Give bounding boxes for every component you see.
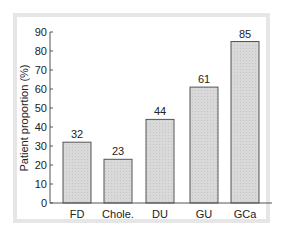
bar-chart: 0102030405060708090 3223446185 FDChole.D… [0, 0, 305, 238]
bar-value-label: 61 [198, 73, 210, 85]
bar-value-label: 85 [239, 28, 251, 40]
y-tick-label: 60 [35, 83, 47, 95]
y-tick-label: 90 [35, 26, 47, 38]
y-tick-label: 10 [35, 178, 47, 190]
bar-value-label: 32 [71, 128, 83, 140]
bar-fd [63, 142, 91, 203]
bar-gu [190, 87, 218, 203]
y-tick-label: 0 [41, 197, 47, 209]
bar-value-label: 44 [154, 105, 166, 117]
x-category-label: FD [70, 208, 85, 220]
x-category-label: GU [196, 208, 213, 220]
y-tick-label: 50 [35, 102, 47, 114]
y-tick-label: 40 [35, 121, 47, 133]
y-tick-label: 80 [35, 45, 47, 57]
x-axis: FDChole.DUGUGCa [50, 203, 272, 220]
bar-gca [231, 42, 259, 204]
x-category-label: Chole. [102, 208, 134, 220]
y-tick-label: 70 [35, 64, 47, 76]
bar-du [146, 119, 174, 203]
y-tick-label: 30 [35, 140, 47, 152]
y-axis-label: Patient proportion (%) [18, 65, 30, 172]
bar-chole [104, 159, 132, 203]
x-category-label: DU [152, 208, 168, 220]
bar-value-label: 23 [112, 145, 124, 157]
y-axis: 0102030405060708090 [35, 26, 53, 209]
bars: 3223446185 [63, 28, 259, 204]
y-tick-label: 20 [35, 159, 47, 171]
x-category-label: GCa [234, 208, 258, 220]
